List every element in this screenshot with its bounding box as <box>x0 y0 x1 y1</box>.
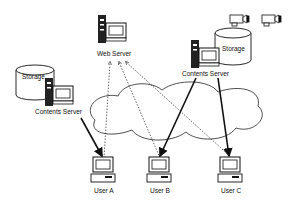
user-c-label: User C <box>221 187 241 194</box>
video-camera-icon <box>262 15 281 26</box>
web-server-icon <box>98 15 126 43</box>
user-b-label: User B <box>150 187 170 194</box>
user-c-computer-icon <box>218 157 242 182</box>
video-camera-icon <box>230 15 249 26</box>
contents-server-left-label: Contents Server <box>35 108 82 115</box>
contents-server-right-label: Contents Server <box>182 70 229 77</box>
user-b-computer-icon <box>147 157 171 182</box>
web-server-label: Web Server <box>97 50 131 57</box>
diagram-canvas <box>0 0 303 204</box>
network-diagram: Web Server Storage Contents Server Stora… <box>0 0 303 204</box>
user-a-computer-icon <box>91 157 115 182</box>
network-cloud <box>90 82 262 140</box>
storage-label-right: Storage <box>222 45 245 52</box>
storage-label-left: Storage <box>22 73 45 80</box>
contents-server-icon <box>45 78 73 106</box>
user-a-label: User A <box>94 187 114 194</box>
